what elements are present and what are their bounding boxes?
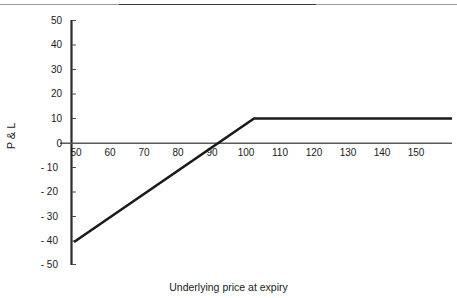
x-tick-label-90: 90: [195, 147, 229, 158]
y-tick-label-neg20: - 20: [22, 186, 58, 197]
x-tick-label-130: 130: [331, 147, 365, 158]
x-tick-label-120: 120: [297, 147, 331, 158]
x-tick-label-100: 100: [229, 147, 263, 158]
chart-container: 50 40 30 20 10 0 - 10 - 20 - 30 - 40 - 5…: [0, 0, 457, 298]
y-tick-label-neg40: - 40: [22, 235, 58, 246]
x-tick-label-70: 70: [127, 147, 161, 158]
x-tick-label-50: 50: [59, 147, 93, 158]
x-tick-label-110: 110: [263, 147, 297, 158]
y-tick-label-0: 0: [26, 138, 62, 149]
x-axis-title: Underlying price at expiry: [0, 281, 457, 293]
y-axis-title: P & L: [5, 106, 17, 166]
y-tick-label-40: 40: [26, 39, 62, 50]
y-tick-label-10: 10: [26, 113, 62, 124]
y-tick-label-neg50: - 50: [22, 259, 58, 270]
y-tick-label-neg10: - 10: [22, 162, 58, 173]
y-tick-label-20: 20: [26, 88, 62, 99]
series-line-p-and-l: [74, 119, 452, 243]
x-tick-label-60: 60: [93, 147, 127, 158]
y-tick-label-neg30: - 30: [22, 211, 58, 222]
x-tick-label-80: 80: [161, 147, 195, 158]
x-tick-label-150: 150: [399, 147, 433, 158]
x-tick-label-140: 140: [365, 147, 399, 158]
y-tick-label-30: 30: [26, 64, 62, 75]
y-tick-label-50: 50: [26, 15, 62, 26]
